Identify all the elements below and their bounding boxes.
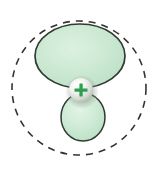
orbital-diagram-canvas bbox=[0, 0, 157, 177]
hybrid-orbital-figure bbox=[0, 0, 157, 177]
